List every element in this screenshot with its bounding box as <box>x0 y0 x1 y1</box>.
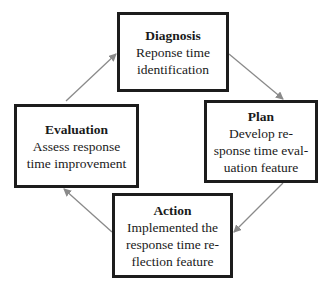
arrow-plan-to-action <box>234 183 283 232</box>
action-box: Action Implemented the response time re-… <box>112 193 233 278</box>
evaluation-title: Evaluation <box>45 121 108 138</box>
arrow-diagnosis-to-plan <box>229 54 283 99</box>
plan-title: Plan <box>248 108 274 125</box>
evaluation-description: Assess response time improvement <box>27 138 126 172</box>
diagnosis-description: Reponse time identification <box>136 44 210 78</box>
diagnosis-title: Diagnosis <box>145 27 201 44</box>
plan-box: Plan Develop re- sponse time eval- uatio… <box>204 100 318 183</box>
evaluation-box: Evaluation Assess response time improvem… <box>14 104 139 188</box>
action-title: Action <box>153 202 191 219</box>
plan-description: Develop re- sponse time eval- uation fea… <box>214 125 308 176</box>
diagnosis-box: Diagnosis Reponse time identification <box>117 12 229 92</box>
arrow-action-to-evaluation <box>64 189 112 232</box>
action-description: Implemented the response time re- flecti… <box>126 219 219 270</box>
arrow-evaluation-to-diagnosis <box>66 54 116 101</box>
cycle-diagram: Diagnosis Reponse time identification Pl… <box>0 0 326 284</box>
